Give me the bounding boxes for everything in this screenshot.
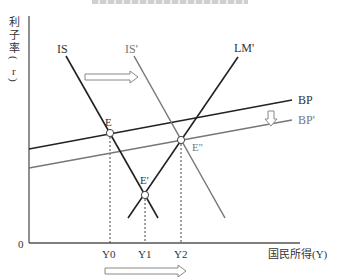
tick-y0: Y0 [102, 248, 116, 260]
is-lm-bp-diagram: IS IS' LM' BP BP' E E' E'' 0 Y0 Y1 Y2 国民… [0, 0, 340, 280]
is-shift-arrow [85, 71, 138, 83]
point-e [106, 129, 113, 136]
tick-y2: Y2 [174, 248, 187, 260]
is-prime-label: IS' [125, 42, 138, 56]
lm-prime-label: LM' [234, 41, 254, 55]
svg-text:利: 利 [9, 16, 20, 28]
svg-text:): ) [7, 78, 20, 82]
origin-label: 0 [18, 238, 24, 250]
bp-prime-label: BP' [298, 113, 315, 127]
point-e-double-prime [177, 136, 184, 143]
income-shift-arrow [105, 265, 186, 277]
bp-curve [29, 100, 292, 149]
svg-text:率: 率 [9, 41, 20, 54]
point-e-prime-label: E' [140, 174, 149, 186]
svg-text:(: ( [7, 56, 20, 60]
point-e-label: E [105, 116, 112, 128]
svg-text:子: 子 [9, 29, 20, 41]
is-label: IS [57, 42, 68, 56]
y-axis-label: 利 子 率 ( r ) [7, 16, 20, 82]
bp-label: BP [298, 93, 313, 107]
svg-text:r: r [12, 65, 16, 77]
point-e-prime [141, 191, 148, 198]
bp-prime-curve [29, 120, 292, 168]
point-e-double-prime-label: E'' [192, 141, 203, 153]
x-axis-label: 国民所得(Y) [268, 248, 328, 261]
tick-y1: Y1 [138, 248, 151, 260]
